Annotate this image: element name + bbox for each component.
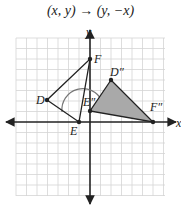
label-D: D [35, 93, 45, 107]
label-E-double-prime: E″ [82, 95, 96, 109]
label-D-double-prime: D″ [109, 65, 125, 79]
point-F-double-prime [151, 120, 155, 124]
y-axis-label: y [85, 25, 92, 39]
point-F [88, 57, 92, 61]
label-F: F [93, 52, 102, 66]
point-E [77, 120, 81, 124]
point-E-double-prime [88, 109, 92, 113]
x-axis-label: x [175, 116, 181, 130]
label-E: E [69, 124, 78, 138]
label-F-double-prime: F″ [149, 100, 163, 114]
coordinate-plane: y x D E F D″ E″ F″ [0, 0, 181, 206]
point-D [45, 98, 49, 102]
